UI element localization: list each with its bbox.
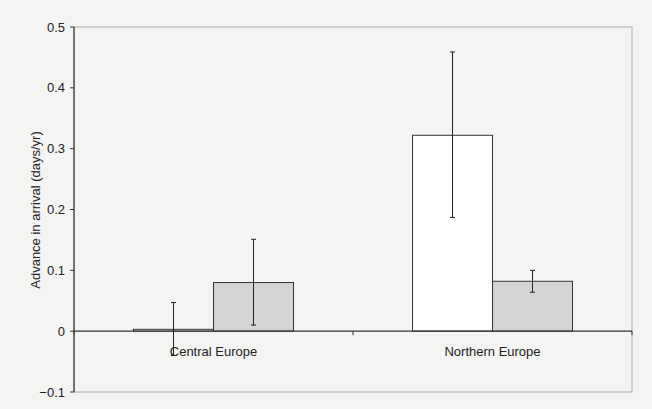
y-tick-label: 0.2 <box>47 202 65 217</box>
bar-chart: −0.100.10.20.30.40.5 Central EuropeNorth… <box>0 0 652 409</box>
y-tick-label: 0.4 <box>47 80 65 95</box>
y-tick-label: 0 <box>58 324 65 339</box>
y-tick-label: 0.1 <box>47 263 65 278</box>
y-tick-label: 0.5 <box>47 20 65 35</box>
plot-area <box>74 27 632 392</box>
x-category-label: Central Europe <box>170 344 257 359</box>
plot-border <box>74 27 632 392</box>
bars <box>134 135 573 331</box>
x-axis: Central EuropeNorthern Europe <box>74 331 632 359</box>
y-tick-label: 0.3 <box>47 141 65 156</box>
y-axis-title: Advance in arrival (days/yr) <box>28 131 43 289</box>
y-axis: −0.100.10.20.30.40.5 <box>39 20 74 400</box>
y-tick-label: −0.1 <box>39 385 65 400</box>
x-category-label: Northern Europe <box>444 344 540 359</box>
